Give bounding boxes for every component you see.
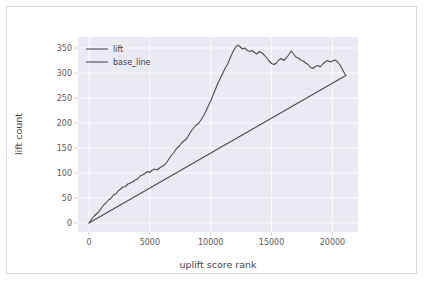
figure-canvas: 05000100001500020000 0501001502002503003…: [0, 0, 424, 281]
y-tick-label: 350: [57, 44, 72, 53]
legend-label-lift: lift: [113, 45, 123, 54]
y-tick-label: 200: [57, 119, 72, 128]
x-tick-label: 10000: [198, 238, 223, 247]
y-tick-label: 100: [57, 169, 72, 178]
x-axis-label: uplift score rank: [179, 259, 257, 270]
y-tick-label: 300: [57, 69, 72, 78]
y-axis-label: lift count: [13, 113, 24, 155]
y-tick-label: 150: [57, 144, 72, 153]
x-tick-label: 15000: [259, 238, 284, 247]
x-tick-label: 0: [86, 238, 91, 247]
x-axis-tick-labels: 05000100001500020000: [86, 238, 345, 247]
x-axis-tick-marks: [89, 233, 332, 236]
y-axis-tick-marks: [75, 48, 78, 223]
y-axis-tick-labels: 050100150200250300350: [57, 44, 72, 228]
y-tick-label: 250: [57, 94, 72, 103]
line-chart: 05000100001500020000 0501001502002503003…: [0, 0, 424, 281]
y-tick-label: 0: [67, 219, 72, 228]
legend-label-base_line: base_line: [113, 58, 151, 67]
x-tick-label: 20000: [320, 238, 345, 247]
y-tick-label: 50: [62, 194, 72, 203]
plot-container: 05000100001500020000 0501001502002503003…: [0, 0, 424, 281]
x-tick-label: 5000: [140, 238, 160, 247]
